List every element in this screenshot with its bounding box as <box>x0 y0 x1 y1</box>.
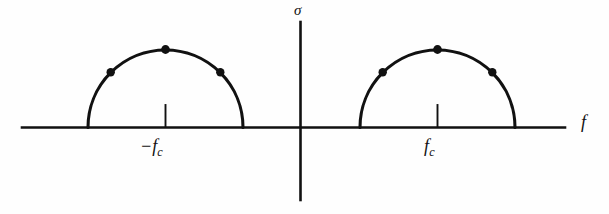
marker-left-apex <box>161 45 170 54</box>
tick-label-negative-fc: −fc <box>140 136 163 160</box>
tick-label-negative-fc-base: −f <box>140 136 157 156</box>
sigma-axis-label: σ <box>294 2 301 19</box>
tick-label-negative-fc-subscript: c <box>157 145 162 159</box>
marker-right-apex <box>433 45 442 54</box>
tick-label-positive-fc: fc <box>424 136 435 160</box>
axis-group <box>22 22 565 200</box>
marker-right-upper-left <box>379 68 387 76</box>
tick-label-positive-fc-subscript: c <box>429 145 434 159</box>
marker-left-upper-right <box>216 68 224 76</box>
marker-left-upper-left <box>107 68 115 76</box>
marker-right-upper-right <box>488 68 496 76</box>
figure-drawing <box>0 0 609 214</box>
frequency-axis-label: f <box>581 112 586 133</box>
figure-canvas: σ f −fc fc <box>0 0 609 214</box>
